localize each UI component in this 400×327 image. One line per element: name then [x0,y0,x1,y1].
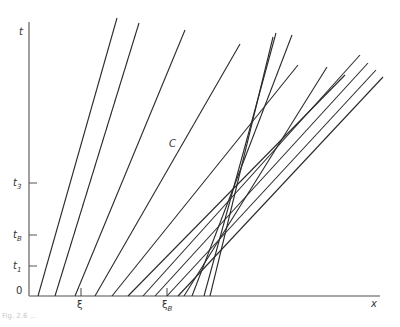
tB-label: tB [13,230,22,244]
xiB-label: ξB [162,300,172,314]
origin-label: 0 [16,286,22,296]
characteristic-lines [38,18,383,296]
t3-label: t3 [13,178,21,192]
t-axis-label: t [19,27,23,37]
curve-c-label: C [169,139,176,149]
characteristics-diagram [0,0,400,327]
t1-label: t1 [13,261,21,275]
x-axis-label: x [371,299,377,309]
figure-caption: Fig. 2.6 ... [2,312,36,320]
xi-label: ξ [77,300,83,310]
